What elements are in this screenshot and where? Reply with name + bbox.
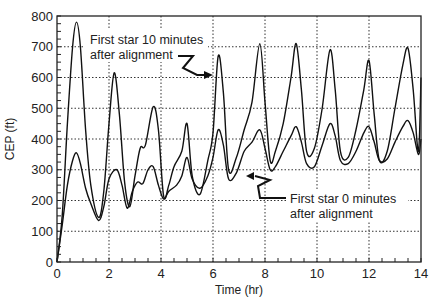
y-axis-title: CEP (ft) <box>3 118 17 160</box>
y-tick-label: 800 <box>31 9 53 24</box>
annotation-10min: First star 10 minutes after alignment <box>84 30 213 79</box>
x-axis-title: Time (hr) <box>215 283 263 297</box>
annotation-10min-line1: First star 10 minutes <box>90 33 203 47</box>
x-tick-label: 12 <box>362 266 376 281</box>
x-tick-label: 8 <box>261 266 268 281</box>
y-tick-label: 500 <box>31 101 53 116</box>
x-tick-label: 4 <box>157 266 164 281</box>
y-tick-label: 200 <box>31 193 53 208</box>
y-tick-label: 100 <box>31 224 53 239</box>
y-tick-label: 0 <box>46 255 53 270</box>
x-tick-labels: 02468101214 <box>53 266 428 281</box>
y-tick-label: 700 <box>31 39 53 54</box>
y-tick-label: 300 <box>31 162 53 177</box>
annotation-0min-line1: First star 0 minutes <box>290 192 396 206</box>
x-tick-label: 6 <box>209 266 216 281</box>
annotation-10min-line2: after alignment <box>90 48 173 62</box>
y-tick-labels: 0100200300400500600700800 <box>31 9 53 270</box>
y-tick-label: 400 <box>31 132 53 147</box>
x-tick-label: 2 <box>105 266 112 281</box>
cep-line-chart: 02468101214 0100200300400500600700800 Ti… <box>0 0 445 301</box>
y-tick-label: 600 <box>31 70 53 85</box>
x-tick-label: 10 <box>310 266 324 281</box>
x-tick-label: 14 <box>414 266 428 281</box>
annotation-0min-arrow-icon <box>255 176 286 198</box>
x-tick-label: 0 <box>53 266 60 281</box>
annotation-0min: First star 0 minutes after alignment <box>246 172 408 222</box>
annotation-0min-line2: after alignment <box>290 207 373 221</box>
